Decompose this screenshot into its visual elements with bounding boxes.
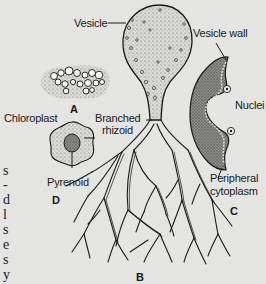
label-vesicle: Vesicle (74, 17, 107, 29)
diagram-drawing (0, 0, 266, 284)
label-pyrenoid: Pyrenoid (47, 176, 89, 188)
edge-text-fragment: - (3, 178, 8, 192)
edge-text-fragment: s (3, 164, 8, 178)
label-peripheral-cytoplasm-line2: cytoplasm (210, 185, 258, 197)
part-label-d: D (52, 194, 60, 206)
label-branched-rhizoid-line1: Branched (95, 112, 141, 124)
vesicle-shape (123, 5, 192, 120)
part-a-cluster (41, 65, 110, 98)
label-peripheral-cytoplasm-line1: Peripheral (210, 172, 258, 184)
label-chloroplast: Chloroplast (4, 112, 57, 124)
edge-text-fragment: e (3, 238, 9, 252)
edge-text-fragment: y (3, 268, 10, 282)
label-branched-rhizoid-line2: rhizoid (102, 124, 133, 136)
part-c-vesicle-wall (190, 57, 235, 170)
edge-text-fragment: s (3, 223, 8, 237)
edge-text-fragment: d (3, 193, 10, 207)
edge-text-fragment: l (3, 208, 7, 222)
edge-text-fragment: s (3, 253, 8, 267)
label-vesicle-wall: Vesicle wall (193, 27, 247, 39)
part-label-c: C (230, 205, 238, 217)
part-label-a: A (70, 103, 78, 115)
nucleus-icon (227, 127, 234, 134)
botrydium-diagram: Vesicle Vesicle wall A Chloroplast Branc… (0, 0, 266, 284)
nucleus-icon (223, 85, 230, 92)
label-nuclei: Nuclei (235, 99, 264, 111)
part-label-b: B (136, 271, 144, 283)
